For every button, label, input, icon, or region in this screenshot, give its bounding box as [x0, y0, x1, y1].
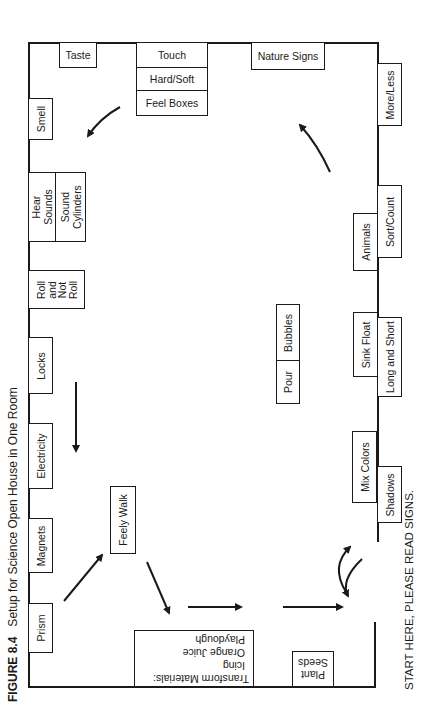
arrow-icon: [64, 555, 102, 601]
station-magnets: Magnets: [28, 518, 53, 573]
station-label: Locks: [35, 352, 47, 379]
station-animals: Animals: [353, 213, 378, 271]
station-label: Long and Short: [384, 321, 396, 393]
station-label: Bubbles: [282, 314, 294, 352]
station-label: Pour: [282, 371, 294, 393]
station-label: Magnets: [35, 525, 47, 565]
station-locks: Locks: [28, 337, 53, 394]
station-hard-soft: Hard/Soft: [136, 67, 208, 91]
station-label: Feel Boxes: [146, 97, 199, 109]
station-label: Mix Colors: [359, 442, 371, 492]
transform-item: Icing: [139, 659, 249, 672]
figure-title: Setup for Science Open House in One Room: [6, 387, 20, 626]
station-label: Prism: [35, 615, 47, 642]
station-label: Roll and Not Roll: [36, 275, 78, 305]
station-long-and-short: Long and Short: [377, 317, 402, 397]
station-sink-float: Sink Float: [353, 312, 378, 377]
station-electricity: Electricity: [28, 423, 53, 489]
station-label: Smell: [35, 106, 47, 132]
station-sort-count: Sort/Count: [377, 185, 402, 258]
transform-heading: Transform Materials:: [139, 672, 249, 685]
station-label: Electricity: [35, 434, 47, 479]
station-label: More/Less: [384, 70, 396, 119]
station-feely-walk: Feely Walk: [110, 486, 136, 554]
arrow-icon: [88, 107, 120, 136]
station-label: Plant Seeds: [296, 657, 330, 681]
station-label: Hear Sounds: [30, 184, 54, 230]
arrow-icon: [300, 125, 330, 172]
station-hear-sounds: Hear Sounds: [28, 172, 56, 242]
station-label: Hard/Soft: [150, 73, 194, 85]
station-touch: Touch: [136, 42, 208, 68]
station-label: Feely Walk: [117, 494, 129, 546]
station-smell: Smell: [28, 98, 53, 140]
arrow-icon: [346, 559, 362, 596]
station-label: Shadows: [384, 473, 396, 516]
station-plant-seeds: Plant Seeds: [292, 651, 334, 687]
station-more-less: More/Less: [377, 63, 402, 126]
start-note: START HERE, PLEASE READ SIGNS.: [403, 490, 415, 690]
station-bubbles: Bubbles: [276, 304, 300, 361]
station-feel-boxes: Feel Boxes: [136, 90, 208, 116]
station-shadows: Shadows: [377, 466, 402, 523]
station-label: Sound Cylinders: [59, 181, 83, 233]
figure-number: FIGURE 8.4: [6, 637, 20, 702]
station-pour: Pour: [276, 360, 300, 404]
station-label: Sink Float: [360, 321, 372, 368]
transform-item: Orange Juice: [139, 646, 249, 659]
station-taste: Taste: [59, 42, 97, 68]
arrow-icon: [147, 562, 169, 613]
station-label: Taste: [65, 49, 90, 61]
station-nature-signs: Nature Signs: [251, 42, 325, 70]
station-roll-and-not-roll: Roll and Not Roll: [28, 270, 85, 309]
station-label: Touch: [158, 49, 186, 61]
transform-materials-label: Transform Materials: Icing Orange Juice …: [139, 633, 249, 685]
station-transform-materials: Transform Materials: Icing Orange Juice …: [134, 630, 254, 687]
figure-caption: FIGURE 8.4 Setup for Science Open House …: [6, 387, 20, 702]
station-mix-colors: Mix Colors: [352, 431, 377, 503]
station-label: Nature Signs: [258, 50, 319, 62]
wall-right-lower: [374, 622, 376, 687]
station-label: Animals: [360, 223, 372, 260]
transform-item: Playdough: [139, 633, 249, 646]
station-sound-cylinders: Sound Cylinders: [55, 172, 86, 242]
arrow-icon: [339, 547, 350, 592]
station-label: Sort/Count: [384, 196, 396, 246]
station-prism: Prism: [28, 603, 53, 653]
